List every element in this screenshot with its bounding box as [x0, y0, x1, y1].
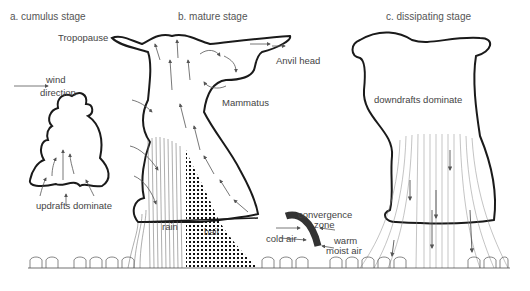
wind-label-2: direction: [40, 88, 76, 98]
mammatus-label: Mammatus: [222, 98, 269, 108]
warm-label-2: moist air: [326, 246, 362, 256]
wind-label-1: wind: [46, 75, 66, 85]
rain-label: rain: [162, 222, 178, 232]
stage-b-title: b. mature stage: [178, 12, 247, 22]
thunderstorm-diagram: [0, 0, 530, 291]
ground-trees: [28, 257, 510, 268]
hail-label: hail: [204, 227, 219, 237]
cumulus-cloud: [30, 93, 109, 206]
convergence-label-2: zone: [314, 220, 335, 230]
stage-a-title: a. cumulus stage: [10, 12, 86, 22]
cold-air-label: cold air: [266, 234, 297, 244]
stage-c-title: c. dissipating stage: [386, 12, 471, 22]
updrafts-label: updrafts dominate: [36, 201, 112, 211]
tropopause-label: Tropopause: [58, 33, 108, 43]
downdrafts-label: downdrafts dominate: [374, 95, 462, 105]
anvil-head-label: Anvil head: [276, 56, 320, 66]
mature-cloud: [112, 35, 290, 268]
dissipating-cloud: [353, 32, 509, 268]
